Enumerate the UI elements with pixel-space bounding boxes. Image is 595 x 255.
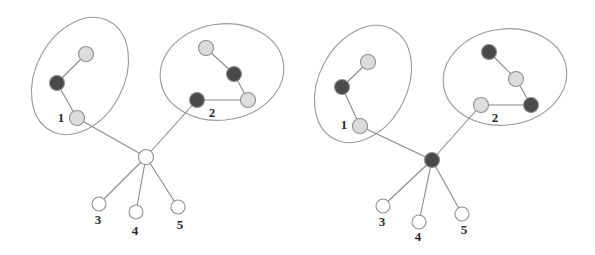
- left-panel-hub-node[interactable]: [139, 150, 154, 165]
- left-panel-cluster-2-boundary-node-2[interactable]: [190, 93, 205, 108]
- right-panel-cluster-2-outline: [437, 21, 573, 133]
- left-panel-cluster-2-light-node-a[interactable]: [199, 41, 214, 56]
- left-panel-edge-hub-leaf5: [146, 157, 178, 207]
- left-panel-leaf-node-4[interactable]: [129, 205, 143, 219]
- left-panel-cluster-1-boundary-node-1-label: 1: [58, 110, 65, 125]
- edge-layer: [57, 48, 531, 222]
- diagram-figure: 1234512345: [0, 0, 595, 255]
- right-panel-cluster-1-dark-node-b[interactable]: [335, 80, 350, 95]
- left-panel-cluster-1-dark-node-b[interactable]: [50, 76, 65, 91]
- node-label-layer: 1234512345: [58, 105, 499, 244]
- left-panel-leaf-node-5[interactable]: [171, 200, 185, 214]
- right-panel-cluster-2-boundary-node-2-label: 2: [492, 110, 499, 125]
- cluster-outline-layer: [12, 1, 573, 160]
- right-panel-edge-hub-leaf3: [383, 160, 432, 206]
- right-panel-cluster-1-boundary-node-1[interactable]: [353, 119, 368, 134]
- right-panel-leaf-node-5-label: 5: [461, 222, 468, 237]
- right-panel-cluster-2-light-node-b[interactable]: [509, 72, 524, 87]
- left-panel-leaf-node-3-label: 3: [95, 212, 102, 227]
- left-panel-leaf-node-4-label: 4: [132, 223, 139, 238]
- left-panel-cluster-2-dark-node-b[interactable]: [227, 67, 242, 82]
- left-panel-cluster-2-outline: [154, 16, 290, 128]
- left-panel-cluster-2-light-node-c[interactable]: [241, 93, 256, 108]
- right-panel-leaf-node-4[interactable]: [412, 215, 426, 229]
- right-panel-cluster-1-boundary-node-1-label: 1: [341, 117, 348, 132]
- right-panel-leaf-node-3[interactable]: [376, 199, 390, 213]
- right-panel-hub-node[interactable]: [425, 153, 440, 168]
- right-panel-cluster-1-outline: [295, 9, 431, 160]
- right-panel-cluster-2-dark-node-a[interactable]: [482, 45, 497, 60]
- left-panel-edge-2-hub: [146, 100, 197, 157]
- right-panel-edge-1-hub: [360, 126, 432, 160]
- left-panel-leaf-node-5-label: 5: [177, 217, 184, 232]
- right-panel-edge-hub-leaf4: [419, 160, 432, 222]
- diagram-canvas: 1234512345: [0, 0, 595, 255]
- left-panel-leaf-node-3[interactable]: [92, 197, 106, 211]
- left-panel-cluster-1-light-node-a[interactable]: [79, 47, 94, 62]
- right-panel-cluster-2-dark-node-c[interactable]: [524, 98, 539, 113]
- right-panel-edge-2-hub: [432, 105, 481, 160]
- right-panel-edge-hub-leaf5: [432, 160, 462, 214]
- left-panel-cluster-2-boundary-node-2-label: 2: [209, 105, 216, 120]
- right-panel-leaf-node-5[interactable]: [455, 207, 469, 221]
- left-panel-cluster-1-outline: [12, 1, 148, 152]
- right-panel-leaf-node-3-label: 3: [379, 214, 386, 229]
- node-layer: [50, 41, 539, 230]
- left-panel-cluster-1-boundary-node-1[interactable]: [70, 111, 85, 126]
- right-panel-cluster-2-boundary-node-2[interactable]: [474, 98, 489, 113]
- right-panel-leaf-node-4-label: 4: [415, 229, 422, 244]
- left-panel-edge-1-hub: [77, 118, 146, 157]
- right-panel-cluster-1-light-node-a[interactable]: [361, 55, 376, 70]
